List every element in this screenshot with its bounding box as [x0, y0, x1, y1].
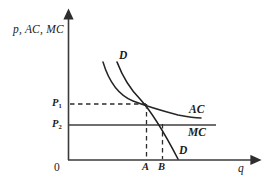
demand-label-bottom: D: [179, 145, 187, 157]
economics-diagram-figure: p, AC, MC 0 q P1 P2 A B D D AC MC: [0, 0, 273, 190]
price-symbol-p2: P: [52, 118, 58, 129]
price-subscript-p1: 1: [59, 102, 62, 109]
demand-label-top: D: [119, 50, 127, 62]
y-axis-label: p, AC, MC: [13, 24, 64, 36]
marginal-cost-label: MC: [188, 127, 206, 139]
average-cost-curve: [103, 62, 201, 118]
price-label-p2: P2: [52, 119, 62, 130]
quantity-tick-a: A: [142, 162, 149, 173]
price-label-p1: P1: [52, 98, 62, 109]
price-symbol-p1: P: [52, 97, 58, 108]
demand-curve: [117, 62, 178, 159]
price-subscript-p2: 2: [59, 123, 62, 130]
average-cost-label: AC: [189, 104, 204, 116]
x-axis-label: q: [238, 163, 244, 175]
quantity-tick-b: B: [158, 162, 165, 173]
origin-label: 0: [54, 162, 60, 174]
